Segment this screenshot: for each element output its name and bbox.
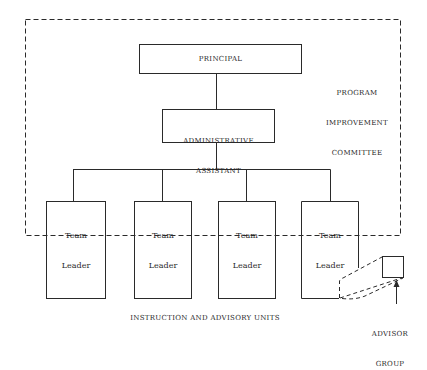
team-leader-1-line-1: Team [46,231,106,241]
team-leader-3-line-2: Leader [218,261,276,271]
team-leader-2-line-1: Team [134,231,192,241]
committee-label: PROGRAM IMPROVEMENT COMMITTEE [316,68,398,178]
team-leader-label-3: Team Leader [218,211,276,291]
advisor-group-line-2: GROUP [368,359,412,369]
team-leader-4-line-1: Team [301,231,359,241]
team-leader-label-2: Team Leader [134,211,192,291]
committee-line-3: COMMITTEE [316,148,398,158]
committee-line-1: PROGRAM [316,88,398,98]
admin-assistant-line-1: ADMINISTRATIVE [162,136,275,146]
team-leader-4-line-2: Leader [301,261,359,271]
committee-line-2: IMPROVEMENT [316,118,398,128]
principal-label: PRINCIPAL [139,54,302,64]
team-leader-label-4: Team Leader [301,211,359,291]
advisor-group-box [383,257,404,278]
team-leader-2-line-2: Leader [134,261,192,271]
team-leader-3-line-1: Team [218,231,276,241]
advisor-group-label: ADVISOR GROUP [368,309,412,370]
admin-assistant-label: ADMINISTRATIVE ASSISTANT [162,116,275,196]
admin-assistant-line-2: ASSISTANT [162,166,275,176]
units-caption: INSTRUCTION AND ADVISORY UNITS [130,313,280,323]
advisor-group-line-1: ADVISOR [368,329,412,339]
advisor-arrow-head [394,280,400,287]
team-leader-label-1: Team Leader [46,211,106,291]
team-leader-1-line-2: Leader [46,261,106,271]
